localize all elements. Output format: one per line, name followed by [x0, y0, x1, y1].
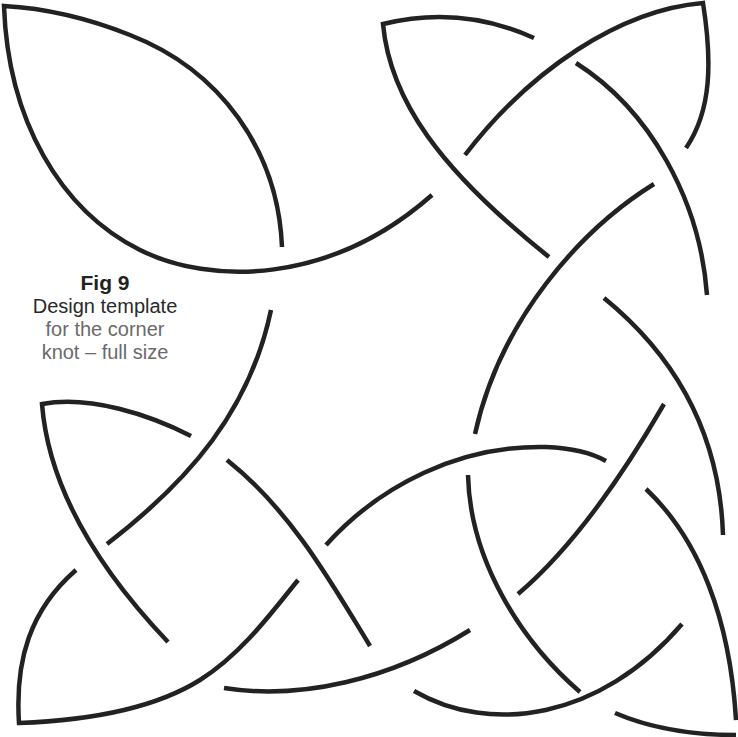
knot-strand-bottom-middle-arc — [224, 630, 470, 691]
knot-diagram — [0, 0, 738, 737]
figure-subtitle-line2: knot – full size — [0, 342, 210, 362]
knot-strand-top-left-leaf — [4, 6, 432, 272]
knot-strand-bottom-left-outer — [18, 570, 298, 723]
knot-strand-right-inner-arc-lower — [604, 298, 723, 535]
figure-subtitle-line1: for the corner — [0, 319, 210, 339]
knot-strand-right-inner-arc — [576, 63, 707, 295]
knot-strand-center-diagonal-right — [518, 404, 664, 594]
figure-number: Fig 9 — [0, 272, 210, 293]
knot-strand-bottom-right-tail — [615, 713, 736, 735]
knot-strand-center-top-arc — [326, 447, 606, 545]
knot-strand-center-vertical — [468, 475, 580, 692]
figure-caption: Fig 9 Design template for the corner kno… — [0, 272, 210, 365]
knot-strand-center-diagonal-upper — [475, 184, 654, 434]
knot-strand-lower-diagonal — [227, 460, 370, 646]
figure-title: Design template — [0, 296, 210, 316]
knot-strand-top-right-left-arc — [383, 17, 549, 257]
knot-strand-bottom-left-upper — [42, 402, 191, 642]
